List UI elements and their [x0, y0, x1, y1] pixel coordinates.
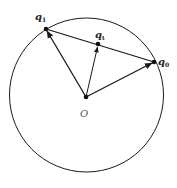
slerp-diagram: q1 qt q0 O — [0, 0, 177, 188]
point-q0 — [152, 60, 157, 65]
vector-o-q1 — [47, 31, 86, 97]
point-qt — [96, 42, 101, 47]
point-q1 — [44, 27, 49, 32]
vector-o-qt — [86, 47, 98, 97]
vector-o-q0 — [86, 63, 152, 97]
label-q0: q0 — [158, 56, 169, 68]
label-origin: O — [80, 108, 88, 119]
label-q1: q1 — [35, 11, 46, 23]
label-qt: qt — [95, 29, 105, 41]
point-origin — [84, 95, 89, 100]
